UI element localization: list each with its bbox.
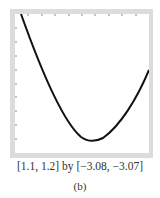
graph-curve <box>15 14 149 153</box>
window-caption: [1.1, 1.2] by [−3.08, −3.07] <box>0 160 160 172</box>
panel-label: (b) <box>0 180 160 192</box>
plot-area <box>15 14 149 153</box>
